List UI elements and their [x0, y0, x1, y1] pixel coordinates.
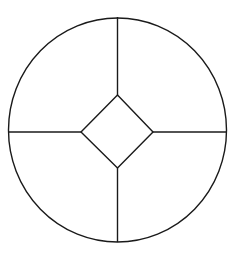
quadrant-diagram	[0, 0, 242, 261]
center-diamond	[81, 95, 153, 168]
